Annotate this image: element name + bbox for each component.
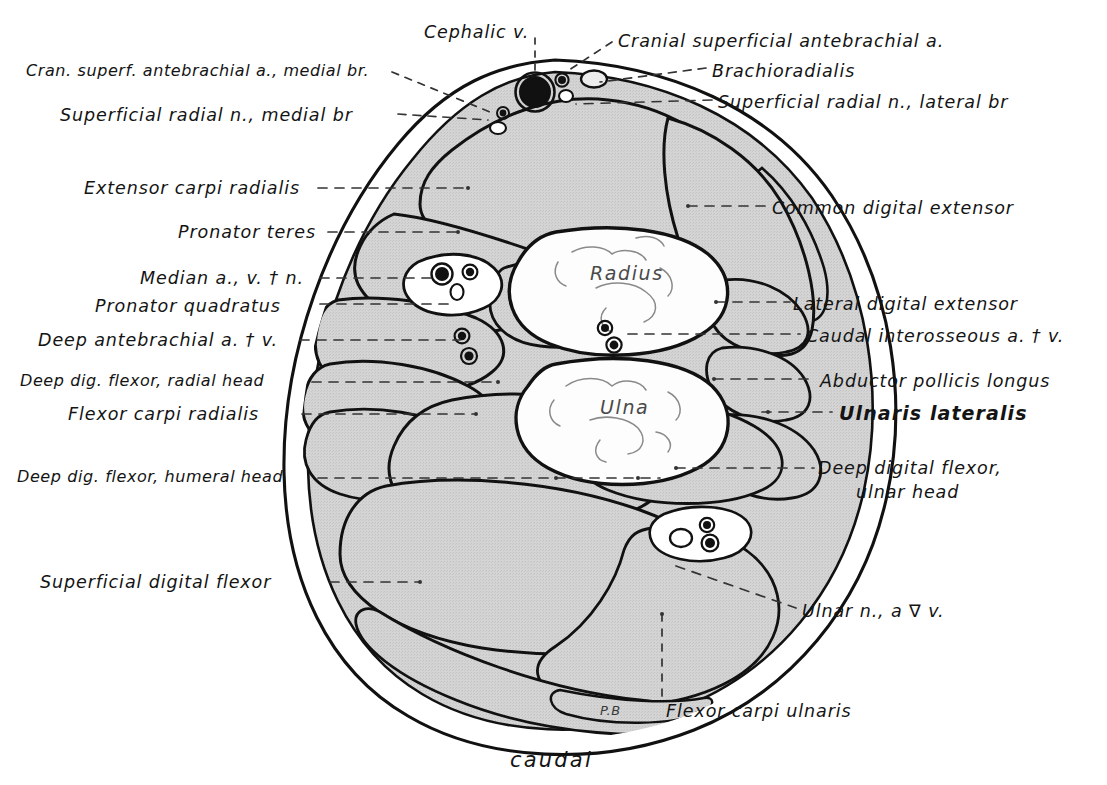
median-artery-lumen — [466, 268, 474, 276]
label-cran-superf-antebrachial-medial: Cran. superf. antebrachial a., medial br… — [26, 62, 369, 81]
label-flexor-carpi-ulnaris: Flexor carpi ulnaris — [666, 701, 852, 722]
ulnar-nerve — [670, 529, 692, 547]
label-cranial-superficial-antebrachial: Cranial superficial antebrachial a. — [618, 31, 944, 52]
label-extensor-carpi-radialis: Extensor carpi radialis — [84, 178, 300, 199]
label-median-artery-vein-nerve: Median a., v. † n. — [140, 268, 304, 289]
median-vein-lumen — [435, 267, 449, 281]
label-common-digital-extensor: Common digital extensor — [772, 198, 1014, 219]
label-superficial-radial-lateral: Superficial radial n., lateral br — [718, 92, 1008, 113]
cran-superf-antebrachial-artery-lumen — [558, 76, 566, 84]
label-cephalic-vein: Cephalic v. — [424, 22, 529, 43]
label-bone-radius: Radius — [590, 262, 664, 284]
label-superficial-digital-flexor: Superficial digital flexor — [40, 572, 271, 593]
deep-antebrachial-vein-lumen — [464, 351, 473, 360]
accessory-vein-a — [559, 90, 573, 102]
label-ulnaris-lateralis: Ulnaris lateralis — [839, 402, 1028, 424]
caudal-interosseous-vein-lumen — [610, 341, 619, 350]
label-deep-antebrachial-artery-vein: Deep antebrachial a. † v. — [38, 330, 278, 351]
label-brachioradialis: Brachioradialis — [712, 61, 855, 82]
median-nerve — [451, 284, 464, 300]
label-pronator-teres: Pronator teres — [178, 222, 316, 243]
label-ulnar-nerve-artery-vein: Ulnar n., a ∇ v. — [802, 601, 944, 622]
cephalic-vein-lumen — [520, 77, 550, 107]
label-pronator-quadratus: Pronator quadratus — [95, 296, 281, 317]
caudal-interosseous-artery-lumen — [601, 324, 609, 332]
label-deep-dig-flexor-ulnar-head-line2: ulnar head — [856, 482, 959, 503]
label-superficial-radial-medial: Superficial radial n., medial br — [60, 105, 353, 126]
ulnar-bundle-sheath — [650, 507, 751, 561]
label-lateral-digital-extensor: Lateral digital extensor — [793, 294, 1018, 315]
superficial-radial-nerve-lateral-branch — [581, 71, 607, 88]
label-deep-dig-flexor-ulnar-head-line1: Deep digital flexor, — [818, 458, 1002, 479]
label-bone-ulna: Ulna — [600, 396, 649, 418]
accessory-vein-b — [490, 122, 506, 134]
artist-signature: P.B — [600, 703, 621, 718]
label-flexor-carpi-radialis: Flexor carpi radialis — [68, 404, 259, 425]
orientation-label-caudal: caudal — [510, 748, 593, 772]
label-deep-dig-flexor-humeral-head: Deep dig. flexor, humeral head — [17, 468, 283, 487]
label-caudal-interosseous-artery-vein: Caudal interosseous a. † v. — [806, 326, 1064, 347]
label-deep-dig-flexor-radial-head: Deep dig. flexor, radial head — [20, 372, 264, 391]
ulnar-vein-lumen — [705, 538, 715, 548]
ulnar-artery-lumen — [703, 521, 711, 529]
ulnar-bundle — [650, 507, 751, 561]
bone-radius — [509, 228, 727, 355]
superficial-radial-nerve-medial-branch-lumen — [500, 110, 507, 117]
median-artery-vein-nerve-bundle — [404, 254, 502, 315]
deep-antebrachial-artery-lumen — [458, 332, 466, 340]
bone-ulna — [516, 359, 728, 485]
label-abductor-pollicis-longus: Abductor pollicis longus — [820, 371, 1050, 392]
